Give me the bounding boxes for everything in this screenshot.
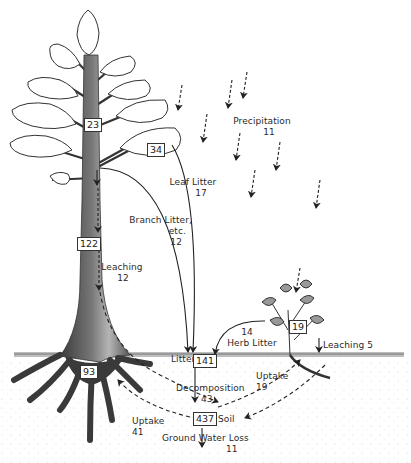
- ground-water-loss-label: Ground Water Loss 11: [162, 433, 249, 455]
- decomposition-label: Decomposition 43: [176, 383, 245, 405]
- tree-leaves-value: 23: [84, 118, 102, 132]
- soil-label: Soil: [218, 414, 235, 425]
- litter-label: Litter: [171, 354, 195, 365]
- soil-value: 437: [193, 412, 217, 426]
- herb-leaching-label: Leaching 5: [323, 340, 373, 351]
- leaf-cluster-value: 34: [147, 143, 165, 157]
- leaf-litter-label: Leaf Litter 17: [158, 177, 228, 199]
- trunk-value: 122: [77, 237, 101, 251]
- herb-value: 19: [289, 320, 307, 334]
- roots-value: 93: [80, 365, 98, 379]
- precipitation-label: Precipitation 11: [222, 116, 302, 138]
- branch-litter-label: Branch Litter, etc. 12: [124, 215, 192, 248]
- litter-value: 141: [193, 354, 217, 368]
- tree-uptake-label: Uptake 41: [132, 416, 164, 438]
- herb-litter-label: 14 Herb Litter: [224, 327, 280, 349]
- herb-uptake-label: Uptake 19: [256, 371, 288, 393]
- nutrient-cycle-diagram: 23 34 122 93 19 Litter 141 437 Soil Prec…: [0, 0, 411, 463]
- tree-leaching-label: Leaching 12: [100, 262, 144, 284]
